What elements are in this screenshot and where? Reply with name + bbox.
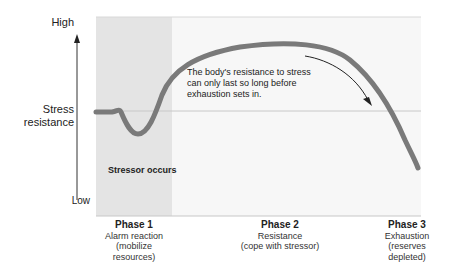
phase-2-label: Phase 2 Resistance (cope with stressor)	[220, 220, 340, 252]
stressor-occurs-label: Stressor occurs	[108, 165, 177, 175]
y-low-label: Low	[60, 194, 90, 207]
y-axis-label-line2: resistance	[10, 116, 74, 129]
alarm-phase-shade	[96, 17, 172, 216]
y-axis-label: Stress resistance	[10, 103, 74, 129]
phase-2-line1: Resistance	[220, 231, 340, 242]
phase-3-line1: Exhaustion	[372, 231, 442, 242]
phase-1-line1: Alarm reaction	[96, 231, 172, 242]
phase-3-line2: (reserves	[372, 241, 442, 252]
y-axis-label-line1: Stress	[10, 103, 74, 116]
y-axis-arrow-icon	[74, 34, 80, 43]
phase-2-line2: (cope with stressor)	[220, 241, 340, 252]
annotation-line3: exhaustion sets in.	[187, 89, 377, 100]
y-high-label: High	[40, 16, 74, 29]
annotation-text: The body's resistance to stress can only…	[187, 67, 377, 100]
phase-3-label: Phase 3 Exhaustion (reserves depleted)	[372, 220, 442, 262]
phase-3-title: Phase 3	[372, 220, 442, 231]
phase-3-line3: depleted)	[372, 252, 442, 262]
phase-1-label: Phase 1 Alarm reaction (mobilize resourc…	[96, 220, 172, 262]
phase-1-line2: (mobilize	[96, 241, 172, 252]
phase-2-title: Phase 2	[220, 220, 340, 231]
phase-1-title: Phase 1	[96, 220, 172, 231]
annotation-line1: The body's resistance to stress	[187, 67, 377, 78]
phase-1-line3: resources)	[96, 252, 172, 262]
annotation-line2: can only last so long before	[187, 78, 377, 89]
